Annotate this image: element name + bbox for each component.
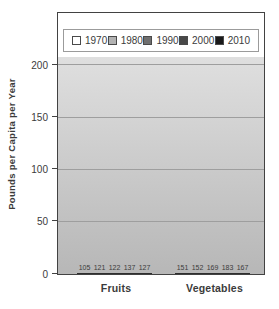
legend: 19701980199020002010 xyxy=(63,29,259,52)
y-tick-label-200: 200 xyxy=(31,60,48,71)
bar-value-label: 137 xyxy=(124,264,136,271)
x-axis-labels: FruitsVegetables xyxy=(0,282,279,296)
gridline-100 xyxy=(58,169,264,170)
bar-fruits-2010: 127 xyxy=(137,273,152,274)
bar-value-label: 151 xyxy=(177,264,189,271)
plot-area: 105121122137127151152169183167 xyxy=(58,57,264,274)
bar-value-label: 105 xyxy=(79,264,91,271)
bar-value-label: 122 xyxy=(109,264,121,271)
bar-value-label: 152 xyxy=(192,264,204,271)
gridline-150 xyxy=(58,117,264,118)
bar-group-vegetables: 151152169183167 xyxy=(175,273,250,274)
legend-item-2000: 2000 xyxy=(179,35,214,46)
bar-vegetables-1970: 151 xyxy=(175,273,190,274)
bar-vegetables-2000: 183 xyxy=(220,273,235,274)
bar-fruits-1990: 122 xyxy=(107,273,122,274)
legend-label: 1980 xyxy=(121,35,143,46)
chart-frame: 19701980199020002010 1051211221371271511… xyxy=(57,12,265,275)
x-label-vegetables: Vegetables xyxy=(176,282,253,294)
legend-item-1970: 1970 xyxy=(72,35,107,46)
legend-swatch-2010 xyxy=(215,36,224,45)
bar-fruits-1980: 121 xyxy=(92,273,107,274)
bar-value-label: 167 xyxy=(237,264,249,271)
legend-item-2010: 2010 xyxy=(215,35,250,46)
bar-value-label: 169 xyxy=(207,264,219,271)
legend-swatch-1970 xyxy=(72,36,81,45)
bar-group-fruits: 105121122137127 xyxy=(77,273,152,274)
bar-value-label: 127 xyxy=(139,264,151,271)
bar-vegetables-1990: 169 xyxy=(205,273,220,274)
x-label-fruits: Fruits xyxy=(78,282,154,294)
gridline-200 xyxy=(58,64,264,65)
y-tick-label-100: 100 xyxy=(31,164,48,175)
legend-label: 1970 xyxy=(85,35,107,46)
legend-label: 1990 xyxy=(156,35,178,46)
legend-label: 2000 xyxy=(192,35,214,46)
y-tick-label-150: 150 xyxy=(31,112,48,123)
legend-item-1980: 1980 xyxy=(108,35,143,46)
legend-swatch-1980 xyxy=(108,36,117,45)
bar-chart: Pounds per Capita per Year 050100150200 … xyxy=(0,0,279,309)
bar-fruits-2000: 137 xyxy=(122,273,137,274)
bar-vegetables-1980: 152 xyxy=(190,273,205,274)
y-axis: 050100150200 xyxy=(0,57,57,274)
bar-value-label: 121 xyxy=(94,264,106,271)
y-tick-label-50: 50 xyxy=(37,216,48,227)
y-tick-label-0: 0 xyxy=(42,268,48,279)
gridline-50 xyxy=(58,221,264,222)
bar-value-label: 183 xyxy=(222,264,234,271)
bar-vegetables-2010: 167 xyxy=(235,273,250,274)
legend-swatch-2000 xyxy=(179,36,188,45)
legend-label: 2010 xyxy=(228,35,250,46)
legend-item-1990: 1990 xyxy=(143,35,178,46)
legend-swatch-1990 xyxy=(143,36,152,45)
bar-fruits-1970: 105 xyxy=(77,273,92,274)
